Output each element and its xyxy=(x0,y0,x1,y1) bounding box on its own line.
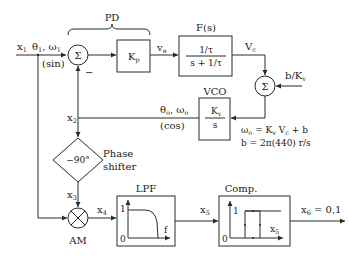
phase-shift-value: −90° xyxy=(66,155,90,165)
fs-block: F(s) 1/τ s + 1/τ xyxy=(179,22,232,76)
x1-signal: x1 θ1, ω1 (sin) xyxy=(16,41,67,218)
pll-block-diagram: x1 θ1, ω1 (sin) PD Σ − Kp ve F(s) 1/τ s … xyxy=(0,0,349,261)
pd-brace xyxy=(68,24,150,35)
x1-label: x1 xyxy=(17,41,27,54)
sum1-symbol: Σ xyxy=(74,50,81,61)
x4-label: x4 xyxy=(97,204,107,217)
omega-equation: ωo = Kv Vc + b xyxy=(241,125,308,137)
sum1-minus-sign: − xyxy=(85,67,93,78)
sum2-symbol: Σ xyxy=(261,81,268,92)
pd-label: PD xyxy=(105,12,120,23)
comp-block: Comp. 1 0 x5 xyxy=(219,183,290,246)
phase-shifter-label-1: Phase xyxy=(103,148,133,159)
phase-shifter-label-2: shifter xyxy=(103,161,136,172)
comp-arrow-down xyxy=(259,224,261,226)
ve-label: ve xyxy=(156,42,167,55)
vc-to-sum2-arrow xyxy=(232,55,265,75)
sin-label: (sin) xyxy=(42,58,65,69)
comp-y1-label: 1 xyxy=(233,206,239,216)
pd-group: PD xyxy=(68,12,150,35)
fs-denominator: s + 1/τ xyxy=(190,58,222,68)
fs-numerator: 1/τ xyxy=(199,45,213,55)
sum2-to-vco-arrow xyxy=(231,96,265,118)
vco-box xyxy=(199,98,230,140)
x2-label: x2 xyxy=(67,112,77,125)
b-equation: b = 2π(440) r/s xyxy=(241,138,311,148)
comp-y0-label: 0 xyxy=(222,234,228,244)
x3-label: x3 xyxy=(67,189,77,202)
comp-arrow-bottom xyxy=(252,237,254,239)
bkv-label: b/Kv xyxy=(285,70,306,83)
lpf-y0-label: 0 xyxy=(120,234,126,244)
phase-shifter-block: −90° Phase shifter xyxy=(53,138,136,182)
comp-arrow-up xyxy=(244,224,246,226)
x6-label: x6 = 0,1 xyxy=(301,204,341,217)
lpf-y1-label: 1 xyxy=(120,204,126,214)
sum2-junction: Σ xyxy=(255,76,275,96)
comp-arrow-top xyxy=(252,210,254,212)
am-multiplier: AM xyxy=(68,208,88,246)
vc-label: Vc xyxy=(244,41,256,54)
comp-label: Comp. xyxy=(225,183,258,194)
lpf-label: LPF xyxy=(136,183,156,194)
x1-junction-dot xyxy=(37,54,39,56)
theta-o-omega-o-label: θo, ωo xyxy=(160,104,188,117)
am-label: AM xyxy=(68,235,86,246)
cos-label: (cos) xyxy=(160,120,185,131)
x5-label: x5 xyxy=(200,204,210,217)
kp-block: Kp xyxy=(117,40,150,72)
vco-block: VCO Kv s xyxy=(199,86,230,140)
sum1-junction: Σ − xyxy=(68,45,93,78)
vco-denominator: s xyxy=(213,120,218,130)
vco-label: VCO xyxy=(202,86,226,97)
theta1-omega1-label: θ1, ω1 xyxy=(32,41,61,54)
fs-label: F(s) xyxy=(196,22,216,33)
lpf-block: LPF 1 0 f xyxy=(117,183,175,246)
